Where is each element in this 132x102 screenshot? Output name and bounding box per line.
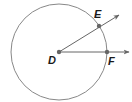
label-e: E xyxy=(94,8,102,20)
point-f xyxy=(105,50,109,54)
label-f: F xyxy=(108,55,115,67)
geometry-diagram: E D F xyxy=(0,0,132,102)
point-e xyxy=(97,24,101,28)
label-d: D xyxy=(48,54,56,66)
ray-de xyxy=(59,15,119,52)
point-d xyxy=(57,50,61,54)
